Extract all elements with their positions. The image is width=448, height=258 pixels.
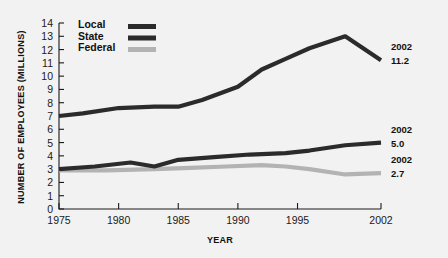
endpoint-value-state: 5.0 [391,138,404,149]
line-chart: NUMBER OF EMPLOYEES (MILLIONS) YEAR 0123… [0,0,448,258]
x-axis-title: YEAR [207,235,233,245]
y-tick-label: 12 [41,44,53,56]
x-tick-label: 1995 [286,214,310,226]
endpoint-year-state: 2002 [391,124,412,135]
y-tick-label: 8 [47,97,53,109]
chart-figure: NUMBER OF EMPLOYEES (MILLIONS) YEAR 0123… [0,0,448,258]
y-tick-label: 14 [41,17,53,29]
x-tick-label: 1985 [167,214,191,226]
endpoint-year-local: 2002 [391,41,412,52]
x-tick-label: 2002 [369,214,393,226]
series-lines [59,36,381,174]
y-tick-label: 11 [42,57,53,69]
endpoint-annotations: 200211.220025.020022.7 [391,41,412,179]
y-tick-label: 9 [47,83,53,95]
y-tick-label: 4 [47,150,53,162]
y-tick-label: 6 [47,123,53,135]
legend-swatch-federal [128,47,156,52]
y-tick-label: 10 [41,70,53,82]
endpoint-value-local: 11.2 [391,55,409,66]
x-tick-label: 1990 [226,214,250,226]
y-tick-label: 7 [47,110,53,122]
y-tick-label: 1 [47,190,53,202]
y-tick-label: 3 [47,163,53,175]
legend-label-local: Local [78,18,106,30]
x-tick-label: 1980 [107,214,131,226]
x-axis-ticks: 197519801985199019952002 [47,203,393,226]
legend-label-federal: Federal [78,41,115,53]
legend-swatch-local [128,24,156,29]
legend-swatch-state [128,36,156,41]
y-axis-title: NUMBER OF EMPLOYEES (MILLIONS) [16,30,26,204]
x-tick-label: 1975 [47,214,71,226]
endpoint-value-federal: 2.7 [391,168,404,179]
y-tick-label: 5 [47,137,53,149]
legend-label-state: State [78,30,104,42]
y-tick-label: 13 [41,30,53,42]
chart-legend: LocalStateFederal [78,18,156,53]
endpoint-year-federal: 2002 [391,154,412,165]
y-tick-label: 2 [47,176,53,188]
